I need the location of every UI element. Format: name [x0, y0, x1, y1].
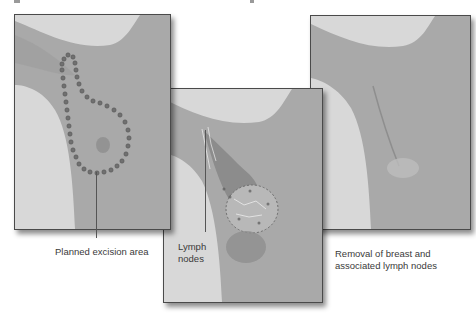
- cropped-title-remnant: [250, 0, 254, 3]
- surgical-removal-illustration: [164, 89, 322, 302]
- panel-planned-excision: [14, 14, 171, 230]
- cropped-title-remnant: [14, 0, 20, 3]
- caption-removal: Removal of breast and associated lymph n…: [335, 248, 437, 272]
- panel-lymph-node-removal: [163, 88, 323, 303]
- caption-line: associated lymph nodes: [335, 260, 437, 272]
- caption-line: Planned excision area: [55, 246, 148, 258]
- caption-lymph-nodes: Lymph nodes: [178, 241, 206, 265]
- caption-planned-excision: Planned excision area: [55, 246, 148, 258]
- caption-line: Removal of breast and: [335, 248, 437, 260]
- caption-line: nodes: [178, 253, 206, 265]
- leader-line-lymph-nodes: [205, 130, 206, 232]
- caption-line: Lymph: [178, 241, 206, 253]
- leader-line-excision: [96, 172, 97, 238]
- torso-illustration-with-dotted-outline: [15, 15, 170, 229]
- post-mastectomy-illustration: [311, 16, 470, 229]
- panel-post-surgery: [310, 15, 471, 230]
